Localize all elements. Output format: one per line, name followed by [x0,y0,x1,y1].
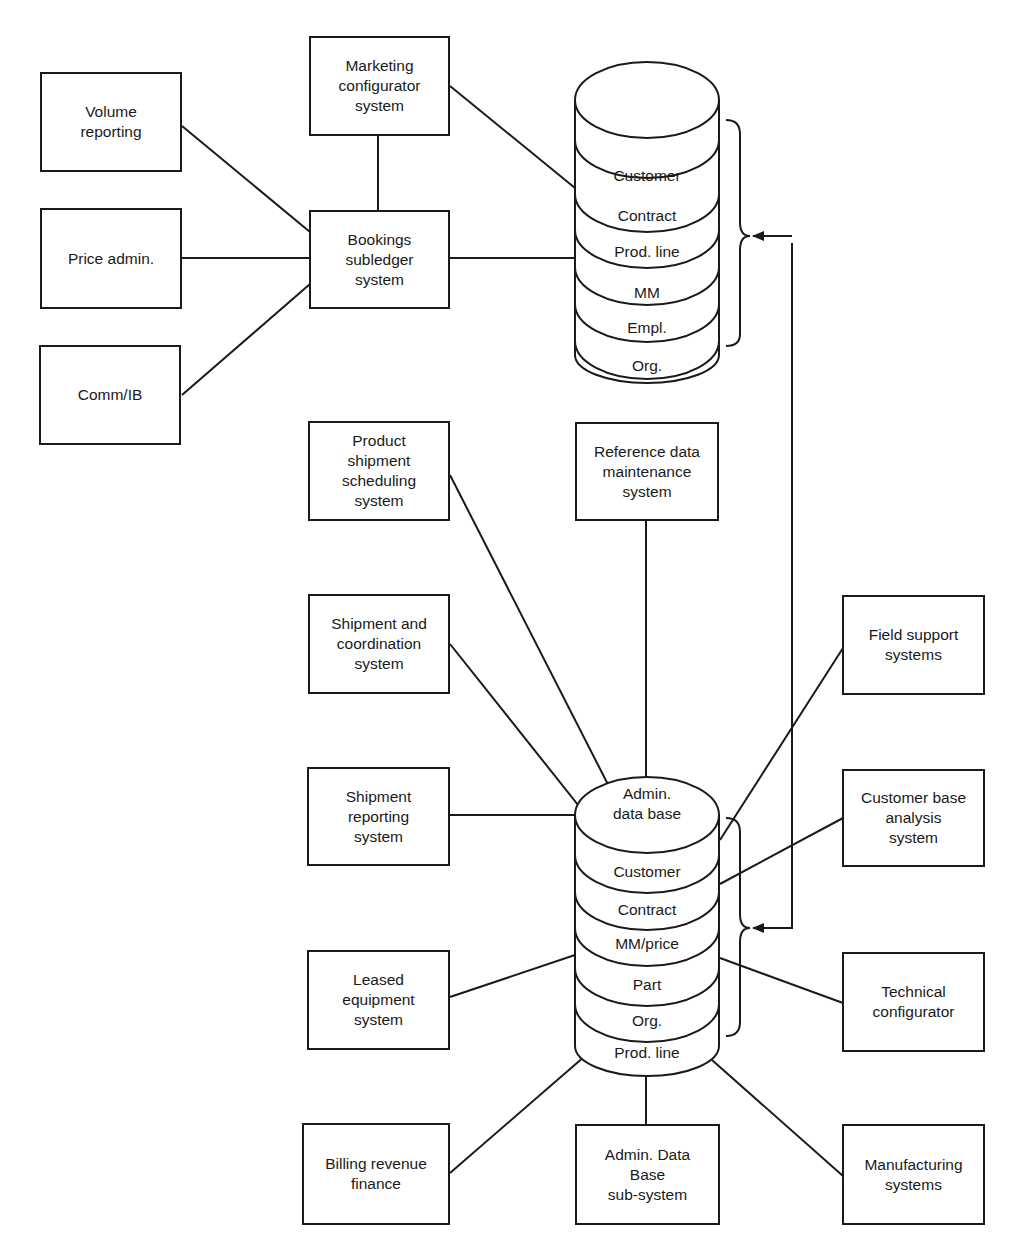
box-leased-equipment: Leased equipment system [307,950,450,1050]
box-volume-reporting: Volume reporting [40,72,182,172]
box-field-support: Field support systems [842,595,985,695]
box-technical-configurator: Technical configurator [842,952,985,1052]
top-db-layer-empl: Empl. [627,318,667,338]
top-db-layer-org: Org. [632,356,662,376]
top-db-layer-contract: Contract [618,206,677,226]
box-admin-db-subsystem: Admin. Data Base sub-system [575,1124,720,1225]
connector-custbase-admindb [720,818,843,884]
connector-field-admindb [720,648,843,840]
box-shipment-reporting: Shipment reporting system [307,767,450,866]
connector-volume-bookings [182,126,310,232]
connector-pss-admindb [450,475,620,808]
admin-brace [726,818,750,1036]
box-marketing-configurator: Marketing configurator system [309,36,450,136]
box-customer-base-analysis: Customer base analysis system [842,769,985,867]
top-db-layer-prod-line: Prod. line [614,242,679,262]
box-bookings-subledger: Bookings subledger system [309,210,450,309]
admin-db-layer-contract: Contract [618,900,677,920]
admin-db-title: Admin. data base [613,784,681,824]
box-shipment-coordination: Shipment and coordination system [308,594,450,694]
connector-leased-admindb [450,955,575,997]
connector-billing-admindb [450,1056,585,1173]
admin-db-layer-prod-line: Prod. line [614,1043,679,1063]
top-db-layer-customer: Customer [613,166,680,186]
admin-db-layer-customer: Customer [613,862,680,882]
connector-comm-bookings [182,284,310,395]
admin-db-layer-mm-price: MM/price [615,934,679,954]
box-reference-data-maintenance: Reference data maintenance system [575,422,719,521]
box-price-admin: Price admin. [40,208,182,309]
box-comm-ib: Comm/IB [39,345,181,445]
box-billing-revenue-finance: Billing revenue finance [302,1123,450,1225]
top-brace [726,120,750,346]
admin-db-layer-part: Part [633,975,661,995]
connector-shipcoord-admindb [450,644,590,820]
connector-marketing-topdb [450,86,575,188]
box-manufacturing-systems: Manufacturing systems [842,1124,985,1225]
connector-techconf-admindb [720,958,843,1003]
connector-manufacturing-admindb [712,1060,843,1176]
arrow-to-admin-brace [753,243,792,928]
box-product-shipment-scheduling: Product shipment scheduling system [308,421,450,521]
top-db-layer-mm: MM [634,283,660,303]
admin-db-layer-org: Org. [632,1011,662,1031]
